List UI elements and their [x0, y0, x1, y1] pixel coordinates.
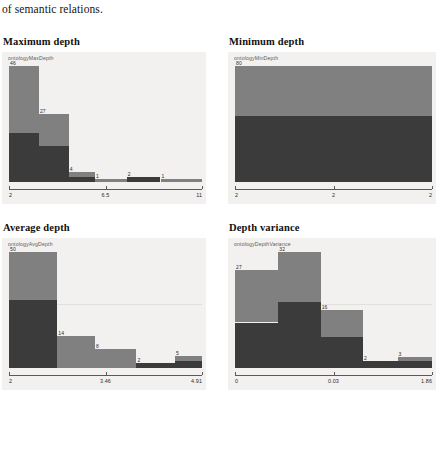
plot-area-maximum-depth: 46274121: [9, 66, 202, 182]
x-axis-tick: [202, 372, 203, 375]
bar: [161, 179, 202, 182]
bars-maximum-depth: 46274121: [9, 66, 202, 182]
x-tick-label-end: 2: [429, 192, 432, 198]
bar-segment-light: [321, 310, 363, 337]
bar-value-label: 32: [279, 246, 285, 252]
chart-cell-maximum-depth: Maximum depth ontologyMaxDepth 46274121 …: [0, 36, 220, 204]
bar: [9, 252, 57, 368]
x-axis-labels-average-depth: 2 3.46 4.91: [9, 378, 202, 388]
x-tick-label-start: 2: [9, 378, 12, 384]
x-axis-depth-variance: [235, 375, 432, 376]
paragraph-text: of semantic relations.: [0, 0, 440, 16]
bar-segment-dark: [363, 361, 397, 368]
bar-segment-light: [95, 349, 136, 368]
bar-segment-dark: [398, 361, 432, 368]
bar-segment-light: [235, 270, 278, 322]
x-axis-tick: [9, 372, 10, 375]
bar-segment-light: [9, 252, 57, 300]
x-axis-tick: [106, 372, 107, 375]
bar-segment-dark: [175, 361, 202, 368]
bars-average-depth: 5014825: [9, 252, 202, 368]
row-spacer: [0, 204, 440, 222]
bar: [9, 66, 39, 182]
bar-segment-light: [9, 66, 39, 133]
x-axis-tick: [235, 372, 236, 375]
bar-segment-light: [161, 179, 202, 182]
bar-value-label: 80: [236, 60, 242, 66]
chart-cell-average-depth: Average depth ontologyAvgDepth 5014825 2…: [0, 222, 220, 390]
x-tick-label-end: 1.86: [421, 378, 432, 384]
x-tick-label-start: 2: [9, 192, 12, 198]
bar-segment-dark: [39, 146, 69, 182]
bar-segment-dark: [9, 300, 57, 368]
bar: [235, 66, 432, 182]
chart-depth-variance: ontologyDepthVariance 27321623 0 0.03 1.…: [228, 238, 436, 390]
x-axis-tick: [106, 186, 107, 189]
x-axis-tick: [202, 186, 203, 189]
bar-segment-dark: [235, 323, 278, 369]
plot-area-average-depth: 5014825: [9, 252, 202, 368]
x-tick-label-start: 0: [235, 378, 238, 384]
bar-segment-dark: [69, 177, 95, 182]
bar-segment-dark: [127, 177, 161, 182]
x-tick-label-end: 11: [196, 192, 202, 198]
bar-value-label: 4: [70, 166, 73, 172]
bar-segment-dark: [321, 337, 363, 368]
bar-value-label: 8: [96, 343, 99, 349]
bar-value-label: 27: [236, 264, 242, 270]
bar-segment-light: [39, 114, 69, 146]
bar: [136, 363, 175, 368]
bar-value-label: 5: [176, 350, 179, 356]
bar-value-label: 16: [322, 304, 328, 310]
bar: [175, 356, 202, 368]
x-tick-label-end: 4.91: [191, 378, 202, 384]
bars-depth-variance: 27321623: [235, 252, 432, 368]
bar-segment-light: [278, 252, 320, 302]
bar: [69, 172, 95, 182]
chart-cell-depth-variance: Depth variance ontologyDepthVariance 273…: [220, 222, 440, 390]
bar-segment-dark: [278, 302, 320, 368]
bars-minimum-depth: 80: [235, 66, 432, 182]
bar: [278, 252, 320, 368]
bar-value-label: 3: [399, 351, 402, 357]
charts-row-2: Average depth ontologyAvgDepth 5014825 2…: [0, 222, 440, 390]
x-axis-tick: [432, 186, 433, 189]
x-tick-label-mid: 0.03: [328, 378, 339, 384]
x-axis-tick: [9, 186, 10, 189]
bar-value-label: 14: [58, 330, 64, 336]
x-axis-maximum-depth: [9, 189, 202, 190]
x-axis-tick: [235, 186, 236, 189]
bar-value-label: 1: [96, 173, 99, 179]
x-axis-tick: [334, 186, 335, 189]
chart-average-depth: ontologyAvgDepth 5014825 2 3.46 4.91: [2, 238, 206, 390]
bar: [321, 310, 363, 368]
bar-segment-light: [95, 179, 127, 182]
x-tick-label-mid: 6.5: [102, 192, 110, 198]
x-tick-label-mid: 2: [332, 192, 335, 198]
bar-segment-dark: [235, 116, 432, 182]
section-title-maximum-depth: Maximum depth: [3, 36, 206, 47]
charts-row-1: Maximum depth ontologyMaxDepth 46274121 …: [0, 36, 440, 204]
charts-grid: Maximum depth ontologyMaxDepth 46274121 …: [0, 36, 440, 390]
bar-value-label: 2: [128, 171, 131, 177]
x-axis-average-depth: [9, 375, 202, 376]
chart-minimum-depth: ontologyMinDepth 80 2 2 2: [228, 52, 436, 204]
bar-segment-light: [57, 336, 95, 368]
section-title-depth-variance: Depth variance: [229, 222, 438, 233]
bar-value-label: 2: [364, 355, 367, 361]
bar: [398, 357, 432, 368]
bar-value-label: 1: [162, 173, 165, 179]
chart-maximum-depth: ontologyMaxDepth 46274121 2 6.5 11: [2, 52, 206, 204]
bar-value-label: 46: [10, 60, 16, 66]
bar-segment-dark: [9, 133, 39, 182]
bar: [95, 349, 136, 368]
bar: [127, 177, 161, 182]
bar: [95, 179, 127, 182]
x-axis-labels-depth-variance: 0 0.03 1.86: [235, 378, 432, 388]
document-page: of semantic relations. Maximum depth ont…: [0, 0, 440, 449]
x-axis-tick: [334, 372, 335, 375]
bar: [235, 270, 278, 368]
x-tick-label-start: 2: [235, 192, 238, 198]
section-title-minimum-depth: Minimum depth: [229, 36, 438, 47]
bar-value-label: 27: [40, 108, 46, 114]
